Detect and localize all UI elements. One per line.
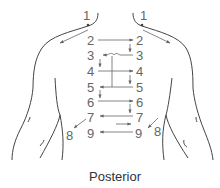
auscultation-diagram: 1 2 3 4 5 6 7 8 9 1 2 3 4 5 6 7 8 9 — [0, 0, 220, 188]
label-2-left: 2 — [87, 33, 94, 48]
label-8-right: 8 — [154, 124, 161, 139]
label-4-right: 4 — [136, 64, 143, 79]
label-1-left: 1 — [83, 8, 90, 23]
label-6-right: 6 — [136, 95, 143, 110]
point-1-right-dot — [141, 24, 144, 27]
label-3-left: 3 — [87, 48, 94, 63]
label-9-right: 9 — [135, 126, 142, 141]
point-1-left-dot — [87, 24, 90, 27]
label-7-left: 7 — [87, 110, 94, 125]
label-4-left: 4 — [87, 64, 94, 79]
label-8-left: 8 — [66, 128, 73, 143]
label-9-left: 9 — [87, 126, 94, 141]
label-6-left: 6 — [87, 95, 94, 110]
label-2-right: 2 — [136, 33, 143, 48]
label-5-left: 5 — [87, 80, 94, 95]
caption-posterior: Posterior — [89, 169, 142, 184]
torso-outline — [12, 13, 213, 160]
arrow-7-to-8-left — [74, 119, 86, 128]
arrow-3 — [103, 53, 133, 55]
arrow-1-right — [143, 30, 170, 43]
label-3-right: 3 — [136, 48, 143, 63]
arrow-1-left — [60, 30, 88, 43]
label-1-right: 1 — [140, 8, 147, 23]
label-7-right: 7 — [136, 110, 143, 125]
label-5-right: 5 — [136, 80, 143, 95]
